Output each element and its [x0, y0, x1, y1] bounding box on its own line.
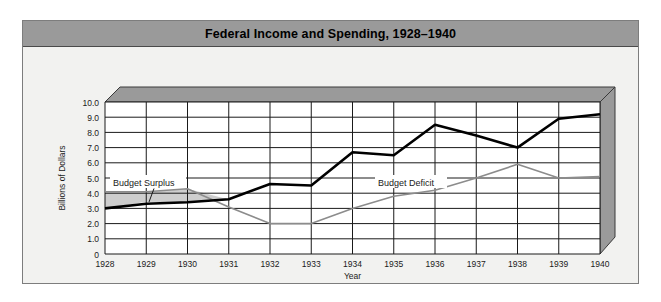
x-tick-1938: 1938	[508, 259, 527, 269]
x-tick-1931: 1931	[219, 259, 238, 269]
x-axis-title: Year	[344, 271, 361, 281]
x-tick-1939: 1939	[549, 259, 568, 269]
y-tick-1: 1.0	[87, 234, 99, 244]
y-tick-0: 0	[94, 250, 99, 260]
y-axis-title: Billions of Dollars	[57, 145, 67, 210]
x-tick-1928: 1928	[96, 259, 115, 269]
y-tick-7: 7.0	[87, 143, 99, 153]
y-tick-4: 4.0	[87, 189, 99, 199]
annotation-budget-deficit: Budget Deficit	[375, 175, 447, 188]
y-tick-9: 9.0	[87, 113, 99, 123]
x-tick-1934: 1934	[343, 259, 362, 269]
y-tick-5: 5.0	[87, 174, 99, 184]
y-tick-3: 3.0	[87, 204, 99, 214]
x-tick-1936: 1936	[426, 259, 445, 269]
x-axis-ticks: 1928 1929 1930 1931 1932 1933 1934 1935 …	[96, 259, 610, 269]
y-tick-2: 2.0	[87, 219, 99, 229]
page-title: Federal Income and Spending, 1928–1940	[205, 27, 456, 41]
x-tick-1929: 1929	[137, 259, 156, 269]
x-tick-1940: 1940	[591, 259, 610, 269]
y-tick-6: 6.0	[87, 158, 99, 168]
x-tick-1937: 1937	[467, 259, 486, 269]
y-tick-10: 10.0	[82, 98, 99, 108]
budget-surplus-label: Budget Surplus	[113, 178, 175, 188]
chart-figure: Federal Income and Spending, 1928–1940	[22, 20, 639, 284]
y-tick-8: 8.0	[87, 128, 99, 138]
plot-area: 10.0 9.0 8.0 7.0 6.0 5.0 4.0 3.0 2.0 1.0…	[23, 47, 640, 284]
x-tick-1935: 1935	[384, 259, 403, 269]
x-tick-1932: 1932	[261, 259, 280, 269]
budget-deficit-label: Budget Deficit	[378, 178, 435, 188]
x-tick-1933: 1933	[302, 259, 321, 269]
plot-right-panel	[600, 87, 615, 254]
plot-top-bevel	[105, 87, 615, 102]
chart-title-bar: Federal Income and Spending, 1928–1940	[23, 21, 638, 47]
y-axis-ticks: 10.0 9.0 8.0 7.0 6.0 5.0 4.0 3.0 2.0 1.0…	[82, 98, 99, 260]
x-tick-1930: 1930	[178, 259, 197, 269]
